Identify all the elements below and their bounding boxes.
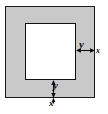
figure-root: y x y x xyxy=(0,0,108,114)
label-bottom-band-y: y xyxy=(53,80,58,91)
inner-square xyxy=(25,23,76,80)
label-right-edge-x: x xyxy=(96,47,100,55)
label-right-band-y: y xyxy=(79,39,84,50)
label-bottom-edge-x: x xyxy=(49,99,54,108)
